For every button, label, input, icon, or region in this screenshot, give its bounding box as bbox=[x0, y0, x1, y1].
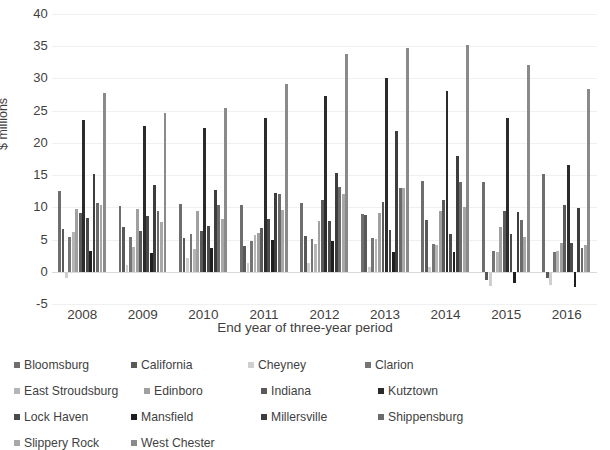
bar bbox=[119, 206, 122, 272]
legend-item[interactable]: Slippery Rock bbox=[14, 430, 131, 450]
y-tick-label: 15 bbox=[8, 168, 48, 181]
legend-item-label: Millersville bbox=[271, 410, 327, 424]
bar bbox=[503, 211, 506, 272]
bar bbox=[425, 220, 428, 272]
legend-swatch-icon bbox=[14, 362, 20, 368]
bar bbox=[324, 96, 327, 271]
bar bbox=[510, 234, 513, 272]
bar bbox=[122, 227, 125, 271]
legend-item[interactable]: California bbox=[131, 352, 248, 378]
bar-group bbox=[234, 14, 295, 304]
bar bbox=[89, 251, 92, 272]
bar bbox=[328, 221, 331, 272]
bar bbox=[193, 249, 196, 272]
bar bbox=[221, 219, 224, 272]
y-tick-label: 0 bbox=[8, 265, 48, 278]
bar bbox=[459, 182, 462, 272]
legend-item[interactable]: Indiana bbox=[261, 378, 378, 404]
bar-group bbox=[355, 14, 416, 304]
bar bbox=[517, 212, 520, 272]
legend-item[interactable]: Mansfield bbox=[131, 404, 261, 430]
legend-item[interactable]: East Stroudsburg bbox=[14, 378, 144, 404]
bar bbox=[129, 237, 132, 272]
bar bbox=[406, 48, 409, 272]
bar bbox=[247, 263, 250, 272]
legend-item-label: Clarion bbox=[375, 358, 414, 372]
bar bbox=[432, 244, 435, 272]
bar bbox=[318, 221, 321, 272]
legend-swatch-icon bbox=[131, 440, 137, 446]
bar bbox=[65, 272, 68, 278]
bar bbox=[553, 252, 556, 271]
bar bbox=[143, 126, 146, 272]
bar bbox=[456, 156, 459, 271]
bar bbox=[449, 234, 452, 272]
bar bbox=[560, 243, 563, 271]
legend-item[interactable]: Kutztown bbox=[378, 378, 495, 404]
bar bbox=[304, 236, 307, 271]
bar bbox=[58, 191, 61, 272]
y-tick-label: 20 bbox=[8, 136, 48, 149]
bar bbox=[68, 237, 71, 272]
bar bbox=[527, 65, 530, 272]
legend-item[interactable]: Shippensburg bbox=[378, 404, 495, 430]
bar bbox=[435, 245, 438, 272]
legend-item[interactable]: Bloomsburg bbox=[14, 352, 131, 378]
legend-swatch-icon bbox=[378, 414, 384, 420]
legend-item[interactable]: Cheyney bbox=[248, 352, 365, 378]
bar bbox=[86, 218, 89, 272]
bar bbox=[331, 241, 334, 271]
y-tick-label: 40 bbox=[8, 7, 48, 20]
bar bbox=[577, 208, 580, 272]
bar bbox=[453, 252, 456, 271]
bar bbox=[489, 272, 492, 286]
bar bbox=[257, 233, 260, 272]
bar bbox=[439, 211, 442, 272]
bar bbox=[442, 200, 445, 272]
legend-item-label: Slippery Rock bbox=[24, 436, 99, 450]
bar bbox=[96, 203, 99, 271]
bar bbox=[395, 131, 398, 272]
legend-item[interactable]: Edinboro bbox=[144, 378, 261, 404]
bar bbox=[549, 272, 552, 285]
legend-swatch-icon bbox=[365, 362, 371, 368]
bar bbox=[392, 252, 395, 272]
bar bbox=[542, 174, 545, 271]
bar bbox=[164, 113, 167, 272]
bar bbox=[132, 247, 135, 271]
legend-swatch-icon bbox=[14, 440, 20, 446]
bar bbox=[157, 211, 160, 272]
bar bbox=[200, 231, 203, 272]
x-axis-title: End year of three-year period bbox=[0, 320, 610, 335]
bar bbox=[399, 188, 402, 272]
legend-swatch-icon bbox=[14, 414, 20, 420]
bar bbox=[496, 252, 499, 271]
bar bbox=[506, 118, 509, 272]
bar bbox=[570, 243, 573, 272]
y-tick-label: 25 bbox=[8, 104, 48, 117]
bar bbox=[587, 89, 590, 272]
legend-swatch-icon bbox=[378, 388, 384, 394]
bar bbox=[338, 187, 341, 272]
bar bbox=[463, 207, 466, 271]
bar bbox=[254, 235, 257, 272]
bar bbox=[361, 214, 364, 272]
bar bbox=[335, 173, 338, 272]
bar bbox=[214, 190, 217, 272]
bar bbox=[281, 210, 284, 272]
legend-item[interactable]: Lock Haven bbox=[14, 404, 131, 430]
legend-item[interactable]: West Chester bbox=[131, 430, 248, 450]
bar bbox=[224, 108, 227, 272]
bar bbox=[389, 230, 392, 272]
bar-group bbox=[173, 14, 234, 304]
bar bbox=[402, 188, 405, 272]
bar bbox=[364, 215, 367, 272]
bar bbox=[314, 244, 317, 272]
bar bbox=[217, 205, 220, 272]
legend-item[interactable]: Clarion bbox=[365, 352, 482, 378]
legend-item-label: Bloomsburg bbox=[24, 358, 89, 372]
legend-item-label: Cheyney bbox=[258, 358, 306, 372]
legend-swatch-icon bbox=[131, 414, 137, 420]
legend-item[interactable]: Millersville bbox=[261, 404, 378, 430]
legend-item-label: California bbox=[141, 358, 192, 372]
